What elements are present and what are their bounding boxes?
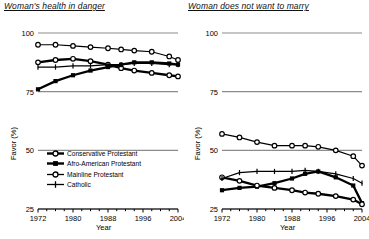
legend-marker-filled-square-thick-icon [47, 159, 64, 168]
plot-area-left: 25507510019721980198819962004 [0, 0, 184, 239]
svg-text:50: 50 [26, 146, 34, 155]
svg-text:100: 100 [21, 29, 34, 38]
y-axis-label-left: Favor (%) [9, 127, 18, 160]
svg-text:1980: 1980 [65, 214, 82, 223]
plot-area-right: 25507510019721980198819962004 [185, 0, 369, 239]
svg-text:1972: 1972 [214, 214, 231, 223]
legend-marker-plus-thin-icon [47, 180, 64, 189]
legend-label-mainline-protestant: Mainline Protestant [67, 171, 123, 178]
legend-label-afro-american-protestant: Afro-American Protestant [67, 160, 141, 167]
svg-text:2004: 2004 [354, 214, 369, 223]
figure-two-panel-line-charts: Woman's health in danger 255075100197219… [0, 0, 369, 239]
svg-text:2004: 2004 [170, 214, 184, 223]
legend-entry-afro-american-protestant: Afro-American Protestant [47, 159, 141, 170]
legend-label-catholic: Catholic [67, 181, 91, 188]
legend: Conservative Protestant Afro-American Pr… [47, 148, 141, 190]
legend-entry-conservative-protestant: Conservative Protestant [47, 148, 141, 159]
svg-text:1988: 1988 [100, 214, 117, 223]
svg-text:1996: 1996 [135, 214, 152, 223]
x-axis-label-right: Year [280, 223, 295, 232]
legend-entry-catholic: Catholic [47, 180, 141, 191]
legend-marker-open-circle-thin-icon [47, 170, 64, 179]
svg-text:25: 25 [210, 205, 218, 214]
svg-text:1980: 1980 [249, 214, 266, 223]
svg-text:75: 75 [210, 88, 218, 97]
svg-text:75: 75 [26, 88, 34, 97]
panel-womans-health-in-danger: Woman's health in danger 255075100197219… [0, 0, 184, 239]
svg-text:25: 25 [26, 205, 34, 214]
panel-woman-does-not-want-to-marry: Woman does not want to marry 25507510019… [185, 0, 369, 239]
svg-text:50: 50 [210, 146, 218, 155]
y-axis-label-right: Favor (%) [193, 127, 202, 160]
svg-text:1996: 1996 [319, 214, 336, 223]
legend-entry-mainline-protestant: Mainline Protestant [47, 169, 141, 180]
x-axis-label-left: Year [96, 223, 111, 232]
svg-text:1988: 1988 [284, 214, 301, 223]
svg-text:100: 100 [205, 29, 218, 38]
legend-label-conservative-protestant: Conservative Protestant [67, 150, 137, 157]
legend-marker-open-circle-thick-icon [47, 149, 64, 158]
svg-text:1972: 1972 [30, 214, 47, 223]
